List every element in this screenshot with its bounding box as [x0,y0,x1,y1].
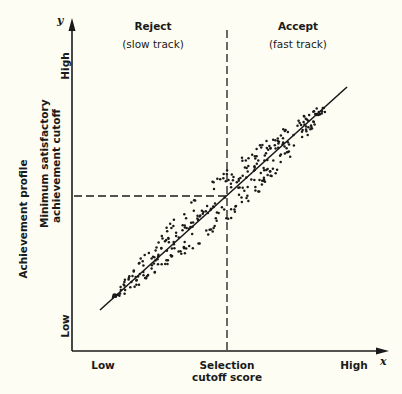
y-axis-title: Achievement profile [17,159,29,279]
x-cutoff-label-line2: cutoff score [177,371,277,383]
y-tick-low: Low [59,306,71,346]
reject-region-title: Reject [118,20,188,32]
y-cutoff-label-line2: achievement cutoff [50,104,62,228]
y-axis-letter: y [57,14,63,27]
x-axis-arrow-icon [376,348,389,355]
x-tick-low: Low [83,359,123,371]
accept-region-title: Accept [263,20,333,32]
x-tick-high: High [334,359,374,371]
x-axis-letter: x [380,355,387,368]
accept-region-subtitle: (fast track) [253,38,343,50]
y-tick-high: High [59,46,71,86]
y-axis-arrow-icon [69,18,76,31]
x-cutoff-label-line1: Selection [187,359,267,371]
y-cutoff-label-line1: Minimum satisfactory [38,104,50,228]
reject-region-subtitle: (slow track) [108,38,198,50]
